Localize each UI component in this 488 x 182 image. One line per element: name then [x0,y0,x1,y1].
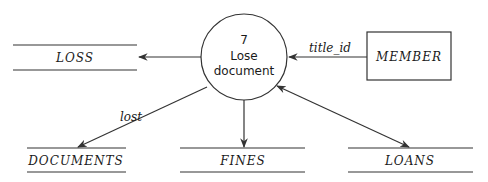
store-label-loans: LOANS [384,154,435,168]
data-store-loans: LOANS [348,148,473,172]
store-label-fines: FINES [219,154,266,168]
data-flow-diagram: 7 Lose document LOSS MEMBER title_id DOC… [0,0,488,182]
flow-label-title-id: title_id [309,41,351,55]
process-number: 7 [240,33,248,47]
flow-process-to-documents [78,87,207,147]
flow-label-lost: lost [120,110,142,124]
data-store-documents: DOCUMENTS [27,148,126,172]
external-entity-member: MEMBER [367,32,451,80]
process-7-lose-document: 7 Lose document [201,14,287,100]
store-label-documents: DOCUMENTS [27,154,124,168]
entity-label-member: MEMBER [375,50,442,64]
data-store-fines: FINES [180,148,305,172]
flow-process-loans-bidirectional [277,86,409,147]
process-name-line1: Lose [230,49,257,63]
data-store-loss: LOSS [13,45,137,70]
process-name-line2: document [214,64,275,78]
store-label-loss: LOSS [55,51,94,65]
